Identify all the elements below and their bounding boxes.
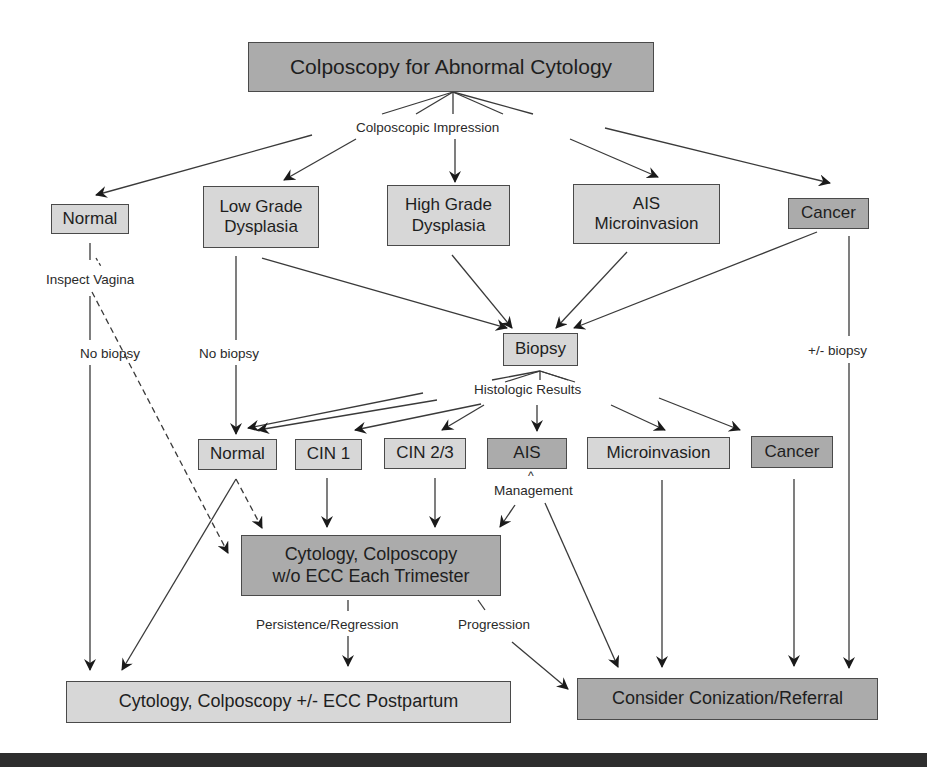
impression-low-grade-node: Low Grade Dysplasia bbox=[203, 186, 319, 248]
histo-microinvasion-text: Microinvasion bbox=[607, 443, 711, 463]
histo-normal-node: Normal bbox=[198, 439, 277, 470]
impression-high-grade-node: High Grade Dysplasia bbox=[387, 185, 510, 246]
label-histologic-results: Histologic Results bbox=[474, 382, 581, 397]
impression-normal-node: Normal bbox=[51, 204, 129, 234]
label-no-biopsy-mid: No biopsy bbox=[199, 346, 259, 361]
impression-cancer-text: Cancer bbox=[801, 203, 856, 223]
label-management: Management bbox=[494, 483, 573, 498]
title-text: Colposcopy for Abnormal Cytology bbox=[290, 54, 612, 79]
histo-ais-text: AIS bbox=[513, 443, 540, 463]
label-plus-minus-biopsy: +/- biopsy bbox=[808, 343, 867, 358]
label-management-caret: ^ bbox=[528, 469, 534, 483]
histo-cin23-text: CIN 2/3 bbox=[396, 443, 454, 463]
impression-cancer-node: Cancer bbox=[788, 198, 869, 229]
flowchart-edges bbox=[0, 0, 927, 767]
postpartum-text: Cytology, Colposcopy +/- ECC Postpartum bbox=[119, 691, 458, 713]
histo-cancer-text: Cancer bbox=[765, 442, 820, 462]
high-grade-line2: Dysplasia bbox=[412, 216, 486, 236]
label-progression: Progression bbox=[458, 617, 530, 632]
high-grade-line1: High Grade bbox=[405, 195, 492, 215]
ais-micro-line1: AIS bbox=[633, 194, 660, 214]
followup-line2: w/o ECC Each Trimester bbox=[272, 566, 469, 588]
impression-ais-micro-node: AIS Microinvasion bbox=[573, 184, 720, 244]
histo-cin1-text: CIN 1 bbox=[307, 444, 350, 464]
title-node: Colposcopy for Abnormal Cytology bbox=[248, 42, 654, 92]
biopsy-text: Biopsy bbox=[515, 339, 566, 359]
label-persistence-regression: Persistence/Regression bbox=[256, 617, 399, 632]
histo-microinvasion-node: Microinvasion bbox=[587, 437, 730, 469]
impression-normal-text: Normal bbox=[63, 209, 118, 229]
low-grade-line2: Dysplasia bbox=[224, 217, 298, 237]
postpartum-node: Cytology, Colposcopy +/- ECC Postpartum bbox=[66, 681, 511, 723]
label-no-biopsy-left: No biopsy bbox=[80, 346, 140, 361]
conization-node: Consider Conization/Referral bbox=[577, 678, 878, 720]
ais-micro-line2: Microinvasion bbox=[595, 214, 699, 234]
biopsy-node: Biopsy bbox=[503, 333, 578, 366]
histo-cancer-node: Cancer bbox=[751, 436, 833, 468]
low-grade-line1: Low Grade bbox=[219, 197, 302, 217]
histo-cin1-node: CIN 1 bbox=[295, 439, 362, 470]
followup-node: Cytology, Colposcopy w/o ECC Each Trimes… bbox=[241, 535, 501, 596]
conization-text: Consider Conization/Referral bbox=[612, 688, 843, 710]
bottom-divider-bar bbox=[0, 753, 927, 767]
histo-cin23-node: CIN 2/3 bbox=[384, 438, 466, 469]
histo-normal-text: Normal bbox=[210, 444, 265, 464]
followup-line1: Cytology, Colposcopy bbox=[285, 544, 458, 566]
histo-ais-node: AIS bbox=[487, 438, 567, 469]
label-inspect-vagina: Inspect Vagina bbox=[46, 272, 134, 287]
label-colposcopic-impression: Colposcopic Impression bbox=[356, 120, 499, 135]
